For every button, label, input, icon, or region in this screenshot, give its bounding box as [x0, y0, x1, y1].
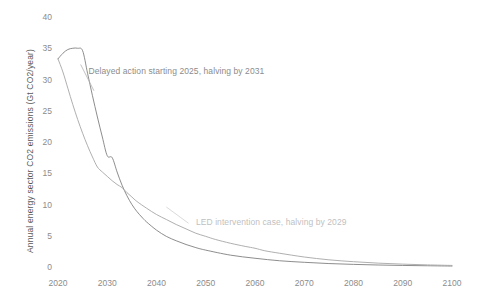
annotation-delayed-action: Delayed action starting 2025, halving by… [89, 66, 265, 76]
series-line-delayed-action [58, 48, 452, 266]
plot-area [0, 0, 481, 302]
chart-container: Annual energy sector CO2 emissions (Gt C… [0, 0, 481, 302]
annotation-led-intervention: LED intervention case, halving by 2029 [196, 217, 347, 227]
series-line-led-intervention [58, 59, 452, 266]
